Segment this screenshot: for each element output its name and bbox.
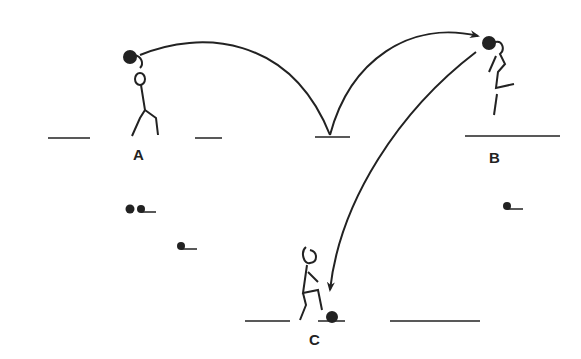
ball-icon <box>483 37 495 49</box>
player-a-figure <box>124 51 158 136</box>
trajectory-bounce-to-b <box>330 33 478 135</box>
player-b-figure <box>483 37 514 115</box>
drill-diagram <box>0 0 581 359</box>
ball-icon <box>327 312 337 322</box>
ball-icon <box>124 51 136 63</box>
label-c: C <box>309 331 320 348</box>
label-a: A <box>133 146 144 163</box>
label-b: B <box>489 149 500 166</box>
trajectory-b-to-c <box>330 52 476 290</box>
spare-balls <box>126 202 524 250</box>
trajectory-a-to-bounce <box>140 42 330 135</box>
